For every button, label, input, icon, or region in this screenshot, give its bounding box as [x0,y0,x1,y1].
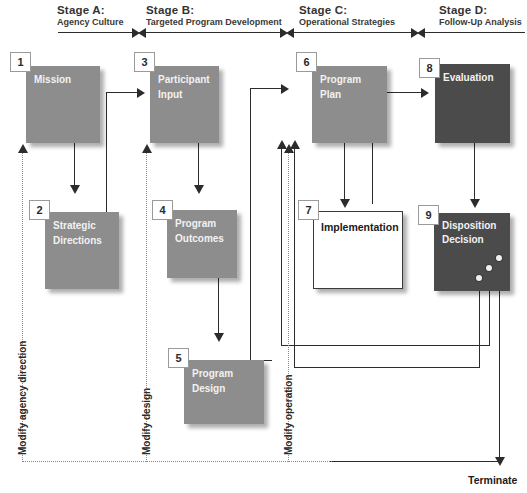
box-implementation-label: Implementation [321,220,398,235]
stage-c-title: Stage C: [299,4,395,16]
box-number-2: 2 [29,200,50,220]
connector-5-to-6-vertical [250,88,251,360]
label-modify-agency-direction: Modify agency direction [17,341,28,455]
box-program-outcomes-label: Program Outcomes [175,216,233,246]
diagram-canvas: Stage A: Agency Culture Stage B: Targete… [0,0,527,493]
box-number-4: 4 [152,200,173,220]
stage-header-d: Stage D: Follow-Up Analysis [439,4,522,28]
box-evaluation-label: Evaluation [443,70,506,85]
box-program-design-label: Program Design [192,366,260,396]
label-terminate: Terminate [468,474,517,486]
box-number-5: 5 [168,348,189,368]
connector-3-to-4-arrow [194,185,204,194]
stage-d-title: Stage D: [439,4,522,16]
box-participant-input-label: Participant Input [158,72,215,102]
stage-divider-line-b [146,32,282,33]
connector-2-to-3-vertical [106,92,107,212]
box-program-plan[interactable]: Program Plan [312,66,387,143]
box-number-7: 7 [298,200,319,220]
box-program-design[interactable]: Program Design [184,360,264,424]
box-evaluation[interactable]: Evaluation [435,64,510,143]
box-strategic-directions-label: Strategic Directions [53,218,115,248]
bottom-solid-line [330,461,500,462]
stage-b-subtitle: Targeted Program Development [146,17,282,28]
stage-divider-arrow-d-left [417,28,425,38]
modify-agency-dotted-horizontal [22,461,332,462]
connector-1-to-2 [74,143,75,188]
connector-5-to-6-horizontal [250,88,284,89]
box-number-8: 8 [419,58,440,78]
connector-8-to-9-arrow [470,199,480,208]
box-disposition-decision-label: Disposition Decision [442,219,506,247]
box-number-9: 9 [418,205,439,225]
stage-divider-line-c [294,32,413,33]
box-program-plan-label: Program Plan [320,72,383,102]
stage-header-c: Stage C: Operational Strategies [299,4,395,28]
box-mission-label: Mission [34,72,96,87]
stage-divider-line-d [425,32,525,33]
stage-divider-arrow-b-left [138,28,146,38]
connector-6-to-7-arrow [340,199,350,208]
modify-design-arrow [142,144,152,153]
disposition-dot-1 [476,275,482,281]
stage-c-subtitle: Operational Strategies [299,17,395,28]
stage-d-subtitle: Follow-Up Analysis [439,17,522,28]
stage-b-title: Stage B: [146,4,282,16]
connector-4-to-5-arrow [214,333,224,342]
connector-2-to-3-horizontal [106,92,140,93]
stage-a-title: Stage A: [57,4,124,16]
box-number-6: 6 [296,52,317,72]
label-modify-operation: Modify operation [283,374,294,455]
connector-6-to-7 [344,143,345,203]
box-number-1: 1 [10,52,31,72]
feedback-9a-vertical-left [294,146,295,368]
feedback-9b-horizontal [281,345,490,346]
feedback-9a-horizontal [294,367,480,368]
connector-3-to-4 [198,143,199,188]
connector-2-to-3-arrow [137,88,145,98]
modify-operation-arrow [284,144,294,153]
disposition-dot-3 [496,255,502,261]
box-strategic-directions[interactable]: Strategic Directions [45,212,119,289]
box-implementation[interactable]: Implementation [313,211,403,289]
box-disposition-decision[interactable]: Disposition Decision [434,213,510,291]
connector-6-to-8-arrow [421,88,429,98]
connector-8-to-9 [474,143,475,203]
stage-divider-line-a [58,32,134,33]
stage-divider-arrow-c-left [286,28,294,38]
stage-header-b: Stage B: Targeted Program Development [146,4,282,28]
connector-5-to-6-arrow [281,84,289,94]
box-program-outcomes[interactable]: Program Outcomes [167,210,237,278]
box-number-3: 3 [134,52,155,72]
label-modify-design: Modify design [141,388,152,455]
connector-1-to-2-arrow [70,185,80,194]
feedback-9b-vertical-left [281,146,282,346]
disposition-dot-2 [486,265,492,271]
stage-a-subtitle: Agency Culture [57,17,124,28]
modify-agency-arrow [18,144,28,153]
box-participant-input[interactable]: Participant Input [150,66,219,143]
stage-header-a: Stage A: Agency Culture [57,4,124,28]
box-mission[interactable]: Mission [26,66,100,143]
